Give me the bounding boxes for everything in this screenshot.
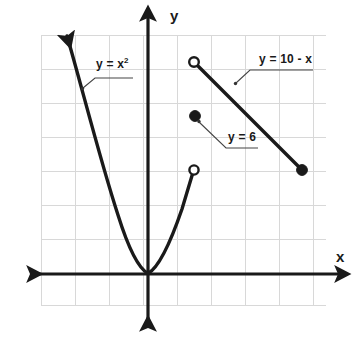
coordinate-plane [0,0,361,340]
label-constant: y = 6 [228,131,256,143]
y-axis-label: y [170,8,178,23]
label-parabola: y = x2 [96,57,129,70]
filled-point-y-equals-6 [190,111,201,122]
label-parabola-exponent: 2 [124,56,129,65]
x-axis-label: x [336,249,344,264]
line-segment-y-equals-10-minus-x [198,66,299,167]
leader-line-segment [236,70,313,83]
leader-dot-segment [234,82,237,85]
parabola-curve-y-equals-x-squared [67,36,193,274]
leader-dot-constant [197,120,200,123]
leader-line-parabola [83,78,133,88]
open-endpoint-segment [189,57,199,67]
graph-figure: y = x2 y = 10 - x y = 6 y x [0,0,361,340]
label-line: y = 10 - x [259,53,312,65]
leader-lines [81,70,313,148]
leader-dot-parabola [81,87,84,90]
filled-endpoint-segment [297,165,308,176]
open-endpoint-parabola [189,165,198,174]
label-parabola-text: y = x [96,57,124,71]
grid-lines [41,35,326,306]
